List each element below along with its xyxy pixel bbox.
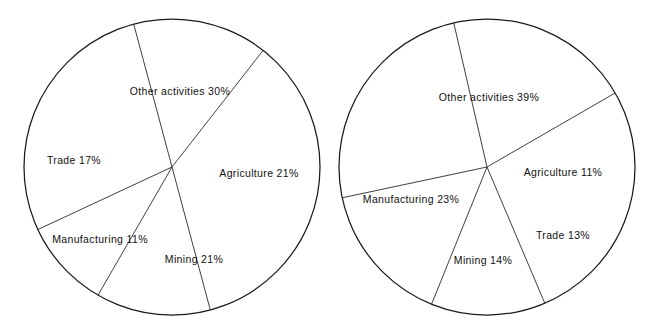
slice-label-manufacturing-right: Manufacturing 23% [363,194,459,205]
slice-label-other-activities-left: Other activities 30% [130,86,230,97]
slice-label-trade-right: Trade 13% [536,230,590,241]
slice-label-trade-left: Trade 17% [47,155,101,166]
pie-chart-figure: Other activities 30% Agriculture 21% Min… [0,0,661,331]
slice-label-manufacturing-left: Manufacturing 11% [52,234,148,245]
slice-label-agriculture-right: Agriculture 11% [524,167,603,178]
slice-label-agriculture-left: Agriculture 21% [219,168,298,179]
slice-label-mining-right: Mining 14% [454,255,512,266]
slice-label-mining-left: Mining 21% [165,254,223,265]
slice-label-other-activities-right: Other activities 39% [439,92,539,103]
